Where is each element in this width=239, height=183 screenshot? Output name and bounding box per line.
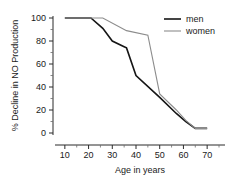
line-chart: 020406080100 10203040506070 Age in years…: [0, 0, 239, 183]
y-axis: 020406080100: [31, 13, 53, 138]
x-axis: 10203040506070: [55, 145, 225, 160]
y-axis-title: % Decline in NO Production: [10, 20, 20, 132]
x-tick-label-40: 40: [131, 150, 141, 160]
y-axis-tick-labels: 020406080100: [31, 13, 46, 138]
x-tick-label-10: 10: [60, 150, 70, 160]
chart-legend: menwomen: [164, 14, 215, 36]
y-tick-label-80: 80: [36, 36, 46, 46]
x-tick-label-30: 30: [107, 150, 117, 160]
y-tick-label-40: 40: [36, 82, 46, 92]
y-tick-label-20: 20: [36, 105, 46, 115]
y-tick-label-60: 60: [36, 59, 46, 69]
x-tick-label-60: 60: [178, 150, 188, 160]
y-tick-label-100: 100: [31, 13, 46, 23]
x-axis-major-ticks: [65, 145, 207, 149]
x-tick-label-20: 20: [84, 150, 94, 160]
x-tick-label-70: 70: [202, 150, 212, 160]
y-tick-label-0: 0: [41, 128, 46, 138]
legend-label-women: women: [185, 26, 215, 36]
chart-container: 020406080100 10203040506070 Age in years…: [0, 0, 239, 183]
x-axis-title: Age in years: [115, 165, 166, 175]
legend-label-men: men: [186, 14, 204, 24]
x-tick-label-50: 50: [155, 150, 165, 160]
x-axis-tick-labels: 10203040506070: [60, 150, 212, 160]
